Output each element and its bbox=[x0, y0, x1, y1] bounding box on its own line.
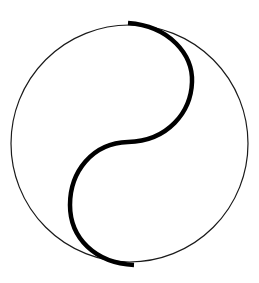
s-curve-divider bbox=[70, 23, 192, 265]
yin-yang-figure: Yin-yang outline symbol: thin outer circ… bbox=[0, 0, 259, 283]
yin-yang-icon bbox=[0, 0, 259, 283]
